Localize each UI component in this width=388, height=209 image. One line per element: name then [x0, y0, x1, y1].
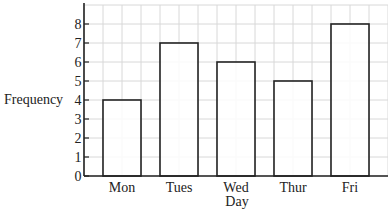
- y-axis-label: Frequency: [4, 92, 63, 107]
- x-axis-ticks: MonTuesWedThurFri: [109, 180, 359, 195]
- bar-tues: [160, 43, 198, 176]
- y-tick-label: 6: [75, 55, 82, 70]
- bar-mon: [103, 100, 141, 176]
- y-tick-label: 2: [75, 131, 82, 146]
- bar-chart: 012345678 MonTuesWedThurFri Frequency Da…: [0, 0, 388, 209]
- bar-fri: [331, 24, 369, 176]
- y-tick-label: 7: [75, 36, 82, 51]
- x-tick-label: Fri: [342, 180, 358, 195]
- x-tick-label: Tues: [166, 180, 193, 195]
- y-axis-ticks: 012345678: [75, 17, 90, 184]
- x-tick-label: Thur: [279, 180, 307, 195]
- y-tick-label: 8: [75, 17, 82, 32]
- bar-thur: [274, 81, 312, 176]
- y-tick-label: 5: [75, 74, 82, 89]
- y-tick-label: 4: [75, 93, 82, 108]
- y-tick-label: 1: [75, 150, 82, 165]
- y-tick-label: 3: [75, 112, 82, 127]
- x-tick-label: Mon: [109, 180, 135, 195]
- x-axis-label: Day: [225, 194, 248, 209]
- bar-wed: [217, 62, 255, 176]
- x-tick-label: Wed: [223, 180, 248, 195]
- y-tick-label: 0: [75, 169, 82, 184]
